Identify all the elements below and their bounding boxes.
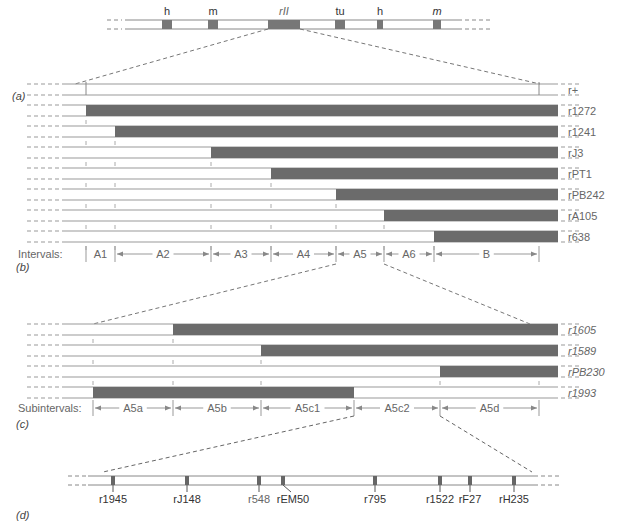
mutation-label: rJ148 <box>173 493 201 505</box>
gene-label: tu <box>335 5 344 17</box>
mutation-label: r1522 <box>426 493 454 505</box>
deletion-map-c: r1605r1589rPB230r1993Subintervals:A5aA5b… <box>18 324 606 472</box>
interval-label: A3 <box>234 248 247 260</box>
deletion-bar <box>440 366 558 377</box>
gene-label: rII <box>279 5 289 17</box>
gene-block <box>433 20 441 29</box>
strain-row: r+ <box>27 82 580 96</box>
strain-row: r1272 <box>27 105 596 124</box>
intervals-label: Intervals: <box>18 248 63 260</box>
strain-label: rJ3 <box>568 147 583 159</box>
interval-label: A4 <box>297 248 310 260</box>
strain-row: rJ3 <box>27 147 583 166</box>
mutation-label: rH235 <box>499 493 529 505</box>
subintervals-label: Subintervals: <box>18 402 82 414</box>
strain-label: r638 <box>568 231 590 243</box>
strain-row: r1993 <box>27 387 597 399</box>
strain-label: rPB230 <box>568 366 606 378</box>
mutation-site: r1522 <box>426 476 454 505</box>
chromosome-map: hmrIItuhm <box>75 5 540 84</box>
mutation-site: rH235 <box>499 476 529 505</box>
subinterval-label: A5d <box>480 402 500 414</box>
subinterval-label: A5c2 <box>384 402 409 414</box>
strain-label: r1589 <box>568 345 596 357</box>
strain-row: rPT1 <box>27 168 592 187</box>
deletion-bar <box>261 345 558 356</box>
strain-label: r1605 <box>568 324 597 336</box>
strain-label: r1241 <box>568 126 596 138</box>
gene-label: h <box>377 5 383 17</box>
interval-label: A2 <box>156 248 169 260</box>
point-mutation-map-d: r1945rJ148r548rEM50r795r1522rF27rH235 <box>68 476 560 505</box>
mutation-label: r1945 <box>99 493 127 505</box>
deletion-bar <box>93 387 354 398</box>
strain-row: rA105 <box>27 210 597 229</box>
rII-deletion-map-diagram: hmrIItuhm (a) r+r1272r1241rJ3rPT1rPB242r… <box>0 0 633 529</box>
deletion-bar <box>115 126 558 137</box>
strain-row: r1241 <box>27 126 596 145</box>
mutation-site: rF27 <box>459 476 482 505</box>
strain-row: r1605 <box>27 324 597 343</box>
gene-block <box>208 20 218 29</box>
interval-label: A6 <box>402 248 415 260</box>
panel-label-c: (c) <box>16 418 29 430</box>
mutation-label: r795 <box>364 493 386 505</box>
subinterval-label: A5a <box>123 402 143 414</box>
gene-block <box>377 20 383 29</box>
mutation-label: r548 <box>248 493 270 505</box>
deletion-map-b: r+r1272r1241rJ3rPT1rPB242rA105r638Interv… <box>18 82 605 324</box>
strain-label: rPB242 <box>568 189 605 201</box>
strain-row: rPB242 <box>27 189 605 208</box>
deletion-bar <box>434 231 558 242</box>
interval-label: B <box>483 248 490 260</box>
gene-label: m <box>208 5 217 17</box>
panel-label-d: (d) <box>16 509 30 521</box>
strain-label: r1993 <box>568 387 597 399</box>
mutation-site: rEM50 <box>277 476 309 505</box>
panel-label-b: (b) <box>16 261 30 273</box>
gene-block <box>268 20 300 29</box>
interval-label: A1 <box>94 248 107 260</box>
gene-block <box>162 20 172 29</box>
panel-label-a: (a) <box>12 90 26 102</box>
strain-row: rPB230 <box>27 366 606 385</box>
deletion-bar <box>336 189 558 200</box>
mutation-site: r795 <box>364 476 386 505</box>
mutation-site: r548 <box>248 476 270 505</box>
subinterval-label: A5b <box>207 402 227 414</box>
strain-label: rA105 <box>568 210 597 222</box>
strain-label: r1272 <box>568 105 596 117</box>
deletion-bar <box>173 324 558 335</box>
strain-label: r+ <box>568 84 578 96</box>
deletion-bar <box>384 210 558 221</box>
mutation-site: r1945 <box>99 476 127 505</box>
subinterval-label: A5c1 <box>295 402 320 414</box>
deletion-bar <box>86 105 558 116</box>
mutation-label: rEM50 <box>277 493 309 505</box>
gene-label: m <box>432 5 441 17</box>
mutation-site: rJ148 <box>173 476 201 505</box>
deletion-bar <box>211 147 558 158</box>
gene-label: h <box>164 5 170 17</box>
strain-row: r1589 <box>27 345 596 364</box>
strain-label: rPT1 <box>568 168 592 180</box>
deletion-bar <box>271 168 558 179</box>
interval-label: A5 <box>353 248 366 260</box>
mutation-label: rF27 <box>459 493 482 505</box>
gene-block <box>335 20 345 29</box>
